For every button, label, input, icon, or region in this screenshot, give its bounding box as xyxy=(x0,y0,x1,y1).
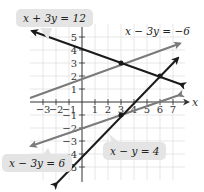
intersection-point xyxy=(158,74,163,79)
intersection-point xyxy=(119,113,124,118)
x-tick-labels: −3 −2 −1 1 2 3 4 5 6 7 xyxy=(36,104,177,115)
svg-text:−1: −1 xyxy=(62,110,77,121)
svg-text:5: 5 xyxy=(71,32,77,43)
svg-text:6: 6 xyxy=(157,104,163,115)
label-x-plus-3y-eq-12: x + 3y = 12 xyxy=(16,9,93,27)
intersection-point xyxy=(119,61,124,66)
label-x-minus-3y-eq-neg6: x − 3y = −6 xyxy=(118,22,197,40)
label-x-minus-3y-eq-6: x − 3y = 6 xyxy=(2,154,72,172)
x-axis-label: x xyxy=(192,96,199,109)
svg-text:−3: −3 xyxy=(62,136,77,147)
svg-text:1: 1 xyxy=(92,104,98,115)
svg-text:1: 1 xyxy=(71,84,77,95)
svg-text:2: 2 xyxy=(105,104,111,115)
svg-text:7: 7 xyxy=(170,104,176,115)
line-x-minus-3y-eq-neg6 xyxy=(30,44,180,99)
svg-text:3: 3 xyxy=(71,58,77,69)
label-x-minus-y-eq-4: x − y = 4 xyxy=(103,142,166,160)
